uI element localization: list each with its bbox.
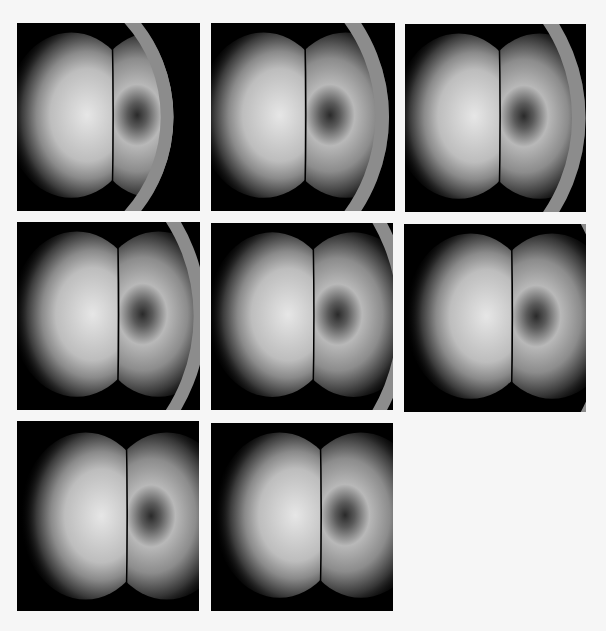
- dipole-panel-3: [405, 24, 586, 212]
- dipole-panel-5: [211, 223, 393, 410]
- dipole-field-image: [405, 24, 586, 212]
- dipole-field-image: [17, 222, 200, 410]
- dipole-field-image: [211, 423, 393, 611]
- dipole-field-image: [404, 224, 586, 412]
- dipole-panel-2: [211, 23, 395, 211]
- dipole-field-image: [17, 421, 199, 611]
- dipole-panel-8: [211, 423, 393, 611]
- dipole-field-image: [211, 223, 393, 410]
- dipole-field-image: [17, 23, 200, 211]
- dipole-panel-6: [404, 224, 586, 412]
- dipole-field-image: [211, 23, 395, 211]
- dipole-panel-1: [17, 23, 200, 211]
- dipole-panel-4: [17, 222, 200, 410]
- dipole-panel-7: [17, 421, 199, 611]
